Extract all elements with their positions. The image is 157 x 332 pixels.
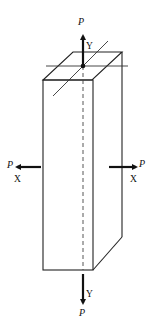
bottom-right-edge — [93, 237, 122, 270]
biaxial-loading-diagram: P Y Y P P X P X — [0, 0, 157, 332]
bottom-load-label: P — [78, 307, 85, 318]
right-axis-label: X — [130, 174, 137, 184]
left-load-label: P — [6, 159, 13, 170]
right-load-label: P — [138, 158, 145, 169]
bottom-axis-label: Y — [86, 289, 93, 299]
top-load-label: P — [77, 16, 84, 27]
load-arrows — [17, 36, 136, 303]
left-axis-label: X — [14, 174, 21, 184]
diagonal-axis-line — [53, 41, 108, 96]
top-axis-label: Y — [86, 41, 93, 51]
front-face — [43, 80, 93, 270]
prism — [43, 52, 122, 270]
